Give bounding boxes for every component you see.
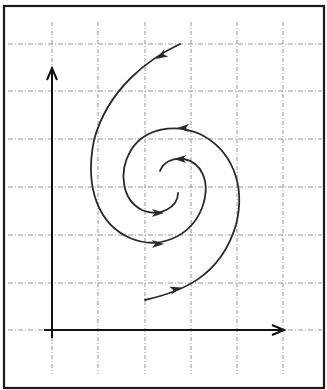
axes [44, 68, 284, 338]
phase-portrait-diagram [0, 0, 327, 390]
trajectories [91, 44, 239, 300]
inner-trajectory-from-bottom [123, 128, 239, 300]
direction-arrow-icon [177, 124, 189, 132]
diagram-svg [0, 0, 327, 390]
